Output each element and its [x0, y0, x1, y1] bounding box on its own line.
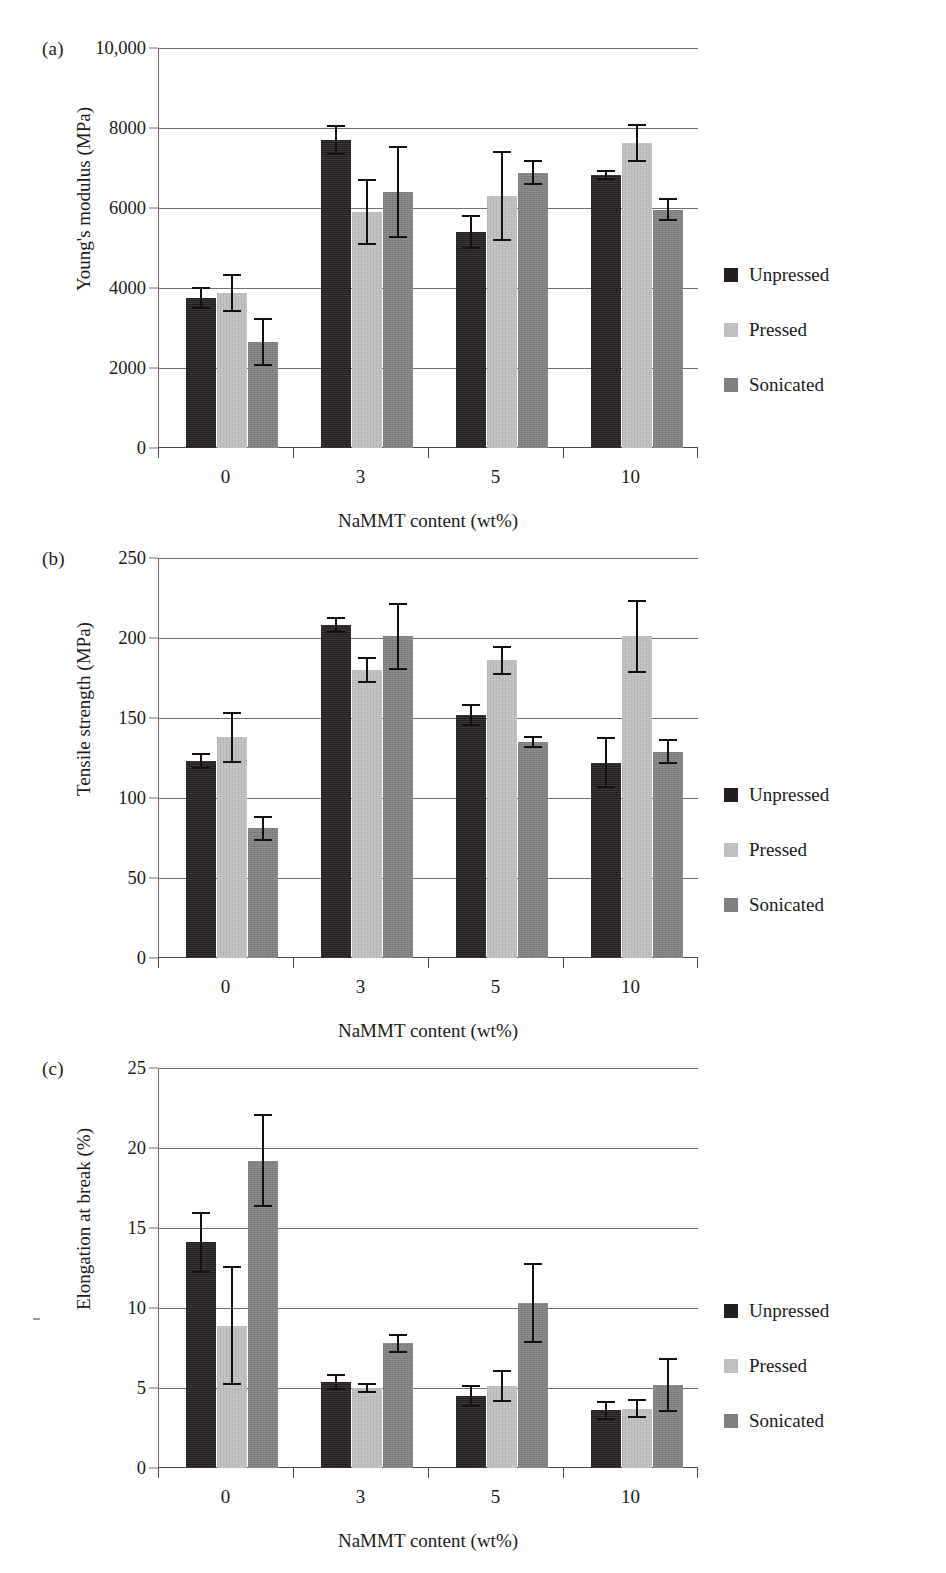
x-tick-mark [697, 958, 698, 968]
x-tick-label: 10 [621, 1486, 640, 1508]
bar [248, 1161, 278, 1468]
y-tick-label: 0 [137, 438, 158, 459]
legend-swatch-icon [724, 378, 738, 392]
legend-label: Pressed [749, 320, 807, 339]
bar [248, 828, 278, 958]
y-axis-line [158, 558, 159, 958]
x-tick-label: 0 [221, 976, 231, 998]
bar [217, 1326, 247, 1468]
bar [186, 1242, 216, 1468]
bar [622, 1409, 652, 1468]
bar [622, 143, 652, 448]
y-axis-label-c: Elongation at break (%) [73, 1039, 95, 1399]
x-tick-label: 10 [621, 466, 640, 488]
legend-c: Unpressed Pressed Sonicated [724, 1301, 829, 1430]
y-tick-label: 250 [118, 548, 158, 569]
x-tick-label: 5 [491, 976, 501, 998]
bar [591, 763, 621, 958]
x-tick-mark [293, 448, 294, 458]
legend-item-pressed: Pressed [724, 1356, 829, 1375]
grid-line [158, 1068, 698, 1069]
legend-item-sonicated: Sonicated [724, 1411, 829, 1430]
bar [487, 1386, 517, 1468]
bar [518, 1303, 548, 1468]
bar [217, 293, 247, 448]
panel-label-b: (b) [42, 548, 65, 570]
bar [622, 636, 652, 958]
bar [352, 670, 382, 958]
y-tick-label: 10 [128, 1298, 159, 1319]
y-tick-label: 0 [137, 948, 158, 969]
y-tick-label: 0 [137, 1458, 158, 1479]
bar [352, 1388, 382, 1468]
y-tick-label: 150 [118, 708, 158, 729]
panel-a: (a) Young's modulus (MPa) 02000400060008… [0, 18, 946, 518]
legend-swatch-icon [724, 268, 738, 282]
x-tick-label: 3 [356, 1486, 366, 1508]
legend-item-sonicated: Sonicated [724, 375, 829, 394]
y-tick-label: 20 [128, 1138, 159, 1159]
x-tick-mark [428, 1468, 429, 1478]
legend-a: Unpressed Pressed Sonicated [724, 265, 829, 394]
x-tick-mark [293, 958, 294, 968]
y-tick-label: 15 [128, 1218, 159, 1239]
multi-panel-bar-figure: (a) Young's modulus (MPa) 02000400060008… [0, 0, 946, 1573]
legend-swatch-icon [724, 788, 738, 802]
legend-item-pressed: Pressed [724, 840, 829, 859]
bar [248, 342, 278, 448]
bar [487, 196, 517, 448]
legend-label: Sonicated [749, 895, 824, 914]
bar [383, 636, 413, 958]
legend-item-sonicated: Sonicated [724, 895, 829, 914]
bar [456, 1396, 486, 1468]
y-tick-label: 25 [128, 1058, 159, 1079]
bar [321, 1382, 351, 1468]
legend-label: Unpressed [749, 265, 829, 284]
y-axis-label-a: Young's modulus (MPa) [73, 19, 95, 379]
x-tick-mark [563, 1468, 564, 1478]
bar [217, 737, 247, 958]
x-tick-mark [158, 448, 159, 458]
x-tick-mark [158, 958, 159, 968]
grid-line [158, 638, 698, 639]
bar [321, 140, 351, 448]
grid-line [158, 48, 698, 49]
legend-swatch-icon [724, 1304, 738, 1318]
legend-swatch-icon [724, 323, 738, 337]
bar [352, 212, 382, 448]
grid-line [158, 1228, 698, 1229]
panel-b: (b) Tensile strength (MPa) 0501001502002… [0, 528, 946, 1028]
x-axis-label-c: NaMMT content (wt%) [158, 1530, 698, 1552]
x-tick-label: 0 [221, 466, 231, 488]
grid-line [158, 1148, 698, 1149]
y-tick-label: 10,000 [95, 38, 158, 59]
panel-c: (c) Elongation at break (%) 051015202503… [0, 1038, 946, 1548]
x-tick-label: 10 [621, 976, 640, 998]
bar [518, 173, 548, 448]
y-tick-label: 50 [128, 868, 159, 889]
panel-label-a: (a) [42, 38, 64, 60]
legend-swatch-icon [724, 1359, 738, 1373]
plot-area-c: 051015202503510 [158, 1068, 698, 1468]
y-tick-label: 200 [118, 628, 158, 649]
legend-item-unpressed: Unpressed [724, 265, 829, 284]
plot-area-b: 05010015020025003510 [158, 558, 698, 958]
bar [653, 752, 683, 958]
legend-label: Sonicated [749, 1411, 824, 1430]
plot-area-a: 0200040006000800010,00003510 [158, 48, 698, 448]
legend-swatch-icon [724, 898, 738, 912]
legend-label: Pressed [749, 840, 807, 859]
x-tick-label: 3 [356, 466, 366, 488]
bar [487, 660, 517, 958]
legend-item-unpressed: Unpressed [724, 785, 829, 804]
grid-line [158, 558, 698, 559]
x-tick-mark [293, 1468, 294, 1478]
x-tick-label: 3 [356, 976, 366, 998]
bar [186, 298, 216, 448]
y-tick-label: 2000 [109, 358, 158, 379]
bar [456, 232, 486, 448]
x-tick-label: 5 [491, 466, 501, 488]
legend-label: Unpressed [749, 1301, 829, 1320]
bar [653, 1385, 683, 1468]
x-tick-mark [428, 448, 429, 458]
